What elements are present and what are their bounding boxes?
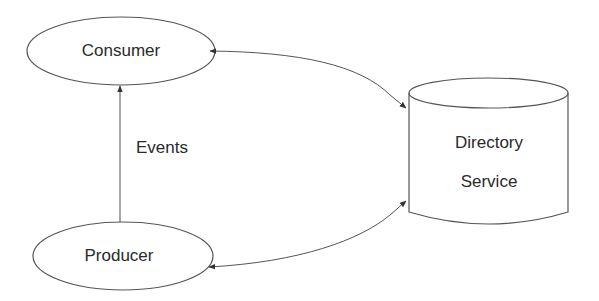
consumer-directory-edge (210, 51, 406, 108)
directory-label-line2: Service (461, 172, 518, 192)
diagram-canvas: Consumer Producer Events Directory Servi… (0, 0, 599, 301)
producer-directory-edge (209, 201, 406, 267)
consumer-label: Consumer (82, 41, 160, 61)
producer-label: Producer (85, 246, 154, 266)
events-label: Events (136, 138, 188, 158)
directory-label-line1: Directory (455, 133, 523, 153)
